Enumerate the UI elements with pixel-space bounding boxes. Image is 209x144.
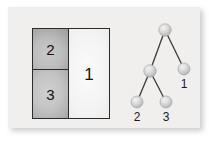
tree-node-leaf-1 — [178, 63, 190, 75]
partition-cell-2: 2 — [33, 29, 68, 70]
figure-panel: 2 3 1 — [8, 7, 200, 128]
tree-node-root — [159, 24, 171, 36]
tree-node-label-1: 1 — [181, 77, 188, 91]
partition-diagram: 2 3 1 — [32, 28, 110, 119]
partition-cell-1-label: 1 — [69, 65, 109, 82]
tree-node-label-3: 3 — [163, 110, 170, 124]
tree-node-internal — [144, 65, 156, 77]
partition-left-column: 2 3 — [33, 29, 69, 118]
tree-edges — [137, 30, 184, 102]
partition-cell-3: 3 — [33, 70, 68, 118]
partition-cell-2-label: 2 — [33, 42, 68, 57]
partition-cell-1: 1 — [69, 29, 109, 118]
tree-node-leaf-2 — [131, 96, 143, 108]
figure-canvas: 2 3 1 — [0, 0, 209, 144]
tree-node-label-2: 2 — [134, 110, 141, 124]
partition-cell-3-label: 3 — [33, 87, 68, 102]
tree-node-leaf-3 — [160, 96, 172, 108]
tree-diagram: 1 2 3 — [118, 17, 208, 129]
